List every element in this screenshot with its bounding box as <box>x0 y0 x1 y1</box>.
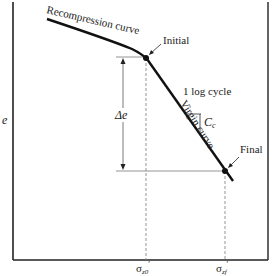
delta-e-label: Δe <box>114 108 128 122</box>
diagram-canvas: Δe 1 log cycle Cc Initial Final Recompre… <box>0 0 276 276</box>
consolidation-diagram: Δe 1 log cycle Cc Initial Final Recompre… <box>0 0 276 276</box>
initial-point <box>143 55 149 61</box>
final-label: Final <box>240 143 263 155</box>
log-cycle-label: 1 log cycle <box>183 85 231 97</box>
delta-e-arrowhead-up <box>121 58 126 64</box>
delta-e-arrowhead-down <box>121 164 126 170</box>
y-axis-label: e <box>2 113 8 127</box>
final-point <box>222 168 228 174</box>
recompression-curve-label: Recompression curve <box>46 3 141 36</box>
initial-label: Initial <box>163 34 189 46</box>
x-tick-final-stress: σzf′ <box>216 260 229 276</box>
x-tick-initial-stress: σz0′ <box>136 260 150 276</box>
